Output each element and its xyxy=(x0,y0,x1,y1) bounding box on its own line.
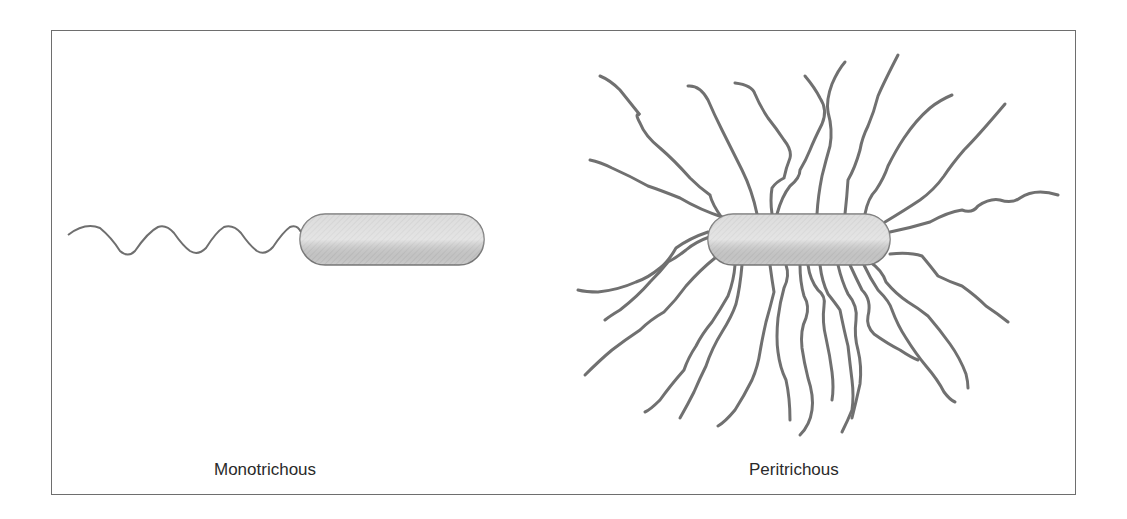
peritrichous-label: Peritrichous xyxy=(749,460,839,480)
monotrichous-flagellum xyxy=(68,226,301,254)
monotrichous-bacterium xyxy=(68,214,484,265)
monotrichous-label: Monotrichous xyxy=(214,460,316,480)
peritrichous-bacterium xyxy=(578,55,1058,435)
flagella-diagram xyxy=(0,0,1127,519)
